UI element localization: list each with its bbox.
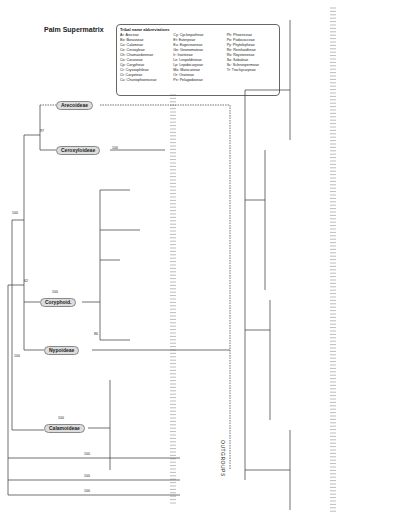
bootstrap-value: 86 [94,332,98,336]
bootstrap-value: 100 [58,416,64,420]
clade-label: Arecoideae [56,101,93,110]
bootstrap-value: 100 [112,146,118,150]
bootstrap-value: 62 [24,279,28,283]
clade-label: Nypoideae [44,346,79,355]
bootstrap-value: 97 [40,129,44,133]
clade-label: Calamoideae [44,424,85,433]
bootstrap-value: 100 [14,354,20,358]
bootstrap-value: 100 [52,290,58,294]
phylogeny-tree [0,0,398,514]
outgroups-label: OUTGROUPS [220,440,226,477]
clade-label: Ceroxyloideae [56,146,100,155]
bootstrap-value: 100 [84,489,90,493]
bootstrap-value: 100 [84,452,90,456]
bootstrap-value: 100 [12,211,18,215]
clade-label: Coryphoid. [40,298,76,307]
bootstrap-value: 100 [84,474,90,478]
